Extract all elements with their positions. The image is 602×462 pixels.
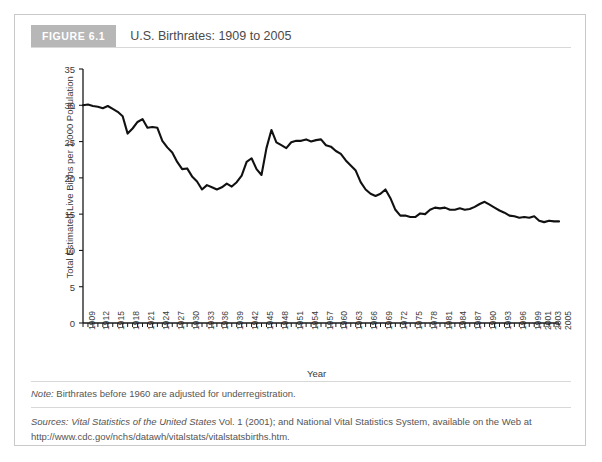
figure-header: FIGURE 6.1 U.S. Birthrates: 1909 to 2005 — [31, 25, 291, 47]
figure-badge: FIGURE 6.1 — [31, 25, 116, 47]
figure-note: Note: Birthrates before 1960 are adjuste… — [31, 388, 571, 399]
birthrate-series-line — [83, 105, 559, 223]
figure-title: U.S. Birthrates: 1909 to 2005 — [116, 25, 291, 47]
chart-axes — [79, 69, 559, 327]
note-label: Note: — [31, 388, 54, 399]
sources-title: Vital Statistics of the United States — [69, 416, 217, 427]
figure-card: FIGURE 6.1 U.S. Birthrates: 1909 to 2005… — [14, 14, 586, 446]
sources-label: Sources: — [31, 416, 69, 427]
note-divider — [31, 381, 571, 382]
note-body: Birthrates before 1960 are adjusted for … — [54, 388, 296, 399]
birthrate-line-chart — [31, 55, 571, 375]
chart-plot-area: Total Estimated Live Births per 1,000 Po… — [31, 55, 571, 375]
sources-divider — [31, 407, 571, 408]
header-divider — [31, 47, 571, 48]
figure-sources: Sources: Vital Statistics of the United … — [31, 414, 559, 444]
